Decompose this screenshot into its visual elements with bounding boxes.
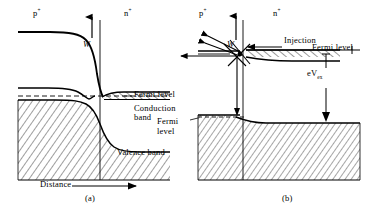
panel-b-fermi-right-leader	[352, 46, 360, 54]
panel-a-valence-band-label: Valence band	[117, 148, 165, 157]
panel-b-valence-fill-right	[236, 117, 360, 180]
figure-root: p+ n+ W Fermi level Conduction band Vale…	[0, 0, 384, 209]
panel-b-n-region-label: n+	[273, 8, 281, 18]
panel-a-n-region-label: n+	[124, 8, 132, 18]
panel-b-eVex-measure	[322, 54, 330, 122]
panel-b-pside-down-arrow	[181, 56, 240, 116]
panel-b-fermi-left-leader	[190, 118, 198, 120]
panel-b-eVex-subscript: ex	[317, 74, 322, 80]
panel-a-graphics	[18, 17, 170, 186]
panel-a-distance-label: Distance	[40, 180, 71, 189]
panel-b-valence-fill-left	[198, 115, 240, 180]
panel-b-fermi-level-left-label-line2: level	[157, 127, 175, 136]
panel-b-fermi-level-left-label-line1: Fermi	[157, 117, 178, 126]
panel-a-p-region-label: p+	[33, 8, 41, 18]
panel-a-n-superscript: +	[128, 7, 131, 13]
panel-b-eVex-label: eVex	[307, 69, 323, 80]
panel-a-caption: (a)	[85, 194, 95, 203]
band-diagram-svg	[0, 0, 384, 209]
panel-b-graphics	[181, 16, 360, 180]
panel-b-fermi-level-right-label: Fermi level	[312, 43, 353, 52]
panel-b-p-region-label: p+	[199, 8, 207, 18]
panel-a-conduction-band-label-line2: band	[134, 113, 151, 122]
panel-b-W-label: W	[227, 40, 234, 49]
panel-b-n-superscript: +	[277, 7, 280, 13]
panel-b-caption: (b)	[282, 194, 293, 203]
panel-a-W-label: W	[83, 40, 90, 49]
panel-a-fermi-level-label: Fermi level	[134, 90, 175, 99]
panel-b-p-superscript: +	[203, 7, 206, 13]
panel-a-p-superscript: +	[37, 7, 40, 13]
